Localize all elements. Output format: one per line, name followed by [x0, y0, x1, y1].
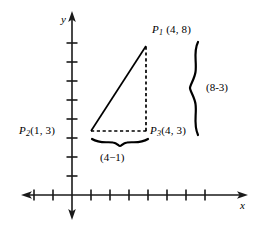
- point-label-p3: P3(4, 3): [150, 125, 186, 138]
- brace-vertical-label: (8-3): [206, 82, 228, 93]
- point-label-p1-name: P: [152, 23, 159, 35]
- point-label-p1-subscript: 1: [159, 28, 163, 37]
- point-label-p1: P1(4, 8): [152, 24, 191, 37]
- point-label-p2-coords: (1, 3): [30, 124, 55, 136]
- point-label-p1-coords: (4, 8): [166, 23, 191, 35]
- triangle: [91, 46, 147, 131]
- diagram-canvas: [0, 0, 269, 229]
- point-label-p3-name: P: [150, 124, 157, 136]
- brace-horizontal: [92, 139, 148, 146]
- point-label-p2-name: P: [19, 124, 26, 136]
- segment-hypotenuse: [91, 46, 146, 131]
- coordinate-diagram: y x P1(4, 8) P2(1, 3) P3(4, 3) (8-3) (4−…: [0, 0, 269, 229]
- point-label-p3-coords: (4, 3): [161, 124, 186, 136]
- x-axis: [21, 190, 248, 201]
- point-label-p2: P2(1, 3): [19, 125, 55, 138]
- y-axis: [67, 11, 78, 220]
- y-axis-label: y: [61, 14, 66, 25]
- brace-vertical: [190, 42, 198, 135]
- x-axis-label: x: [240, 200, 245, 211]
- brace-horizontal-label: (4−1): [100, 152, 125, 163]
